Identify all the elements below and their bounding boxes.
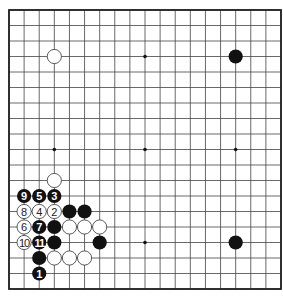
- white-stone: [77, 220, 91, 234]
- move-number-label: 5: [36, 190, 42, 202]
- white-stone: [47, 173, 61, 187]
- black-stone: 7: [32, 220, 46, 234]
- star-point: [143, 55, 147, 59]
- white-stone: [47, 251, 61, 265]
- star-point: [143, 148, 147, 152]
- move-number-label: 2: [51, 206, 57, 218]
- black-stone: 9: [17, 189, 31, 203]
- move-number-label: 9: [21, 190, 27, 202]
- black-stone: [47, 220, 61, 234]
- star-point: [143, 241, 147, 245]
- black-stone: 1: [32, 266, 46, 280]
- move-number-label: 7: [36, 221, 42, 233]
- white-stone: [62, 220, 76, 234]
- move-number-label: 10: [19, 237, 30, 249]
- black-stone: [229, 49, 243, 63]
- star-point: [53, 148, 57, 152]
- move-number-label: 1: [36, 268, 42, 280]
- black-stone: 3: [47, 189, 61, 203]
- black-stone: [62, 204, 76, 218]
- go-board: 9538426710111: [0, 0, 283, 302]
- white-stone: [47, 49, 61, 63]
- move-number-label: 4: [36, 206, 42, 218]
- move-number-label: 11: [34, 237, 45, 249]
- white-stone: 8: [17, 204, 31, 218]
- black-stone: [47, 235, 61, 249]
- white-stone: 10: [17, 235, 31, 249]
- white-stone: [62, 251, 76, 265]
- black-stone: [229, 235, 243, 249]
- move-number-label: 6: [21, 221, 27, 233]
- black-stone: 11: [32, 235, 46, 249]
- star-point: [234, 148, 238, 152]
- black-stone: 5: [32, 189, 46, 203]
- black-stone: [77, 204, 91, 218]
- black-stone: [32, 251, 46, 265]
- black-stone: [93, 235, 107, 249]
- white-stone: 2: [47, 204, 61, 218]
- move-number-label: 8: [21, 206, 27, 218]
- white-stone: [93, 220, 107, 234]
- white-stone: [77, 251, 91, 265]
- white-stone: 6: [17, 220, 31, 234]
- white-stone: 4: [32, 204, 46, 218]
- move-number-label: 3: [51, 190, 57, 202]
